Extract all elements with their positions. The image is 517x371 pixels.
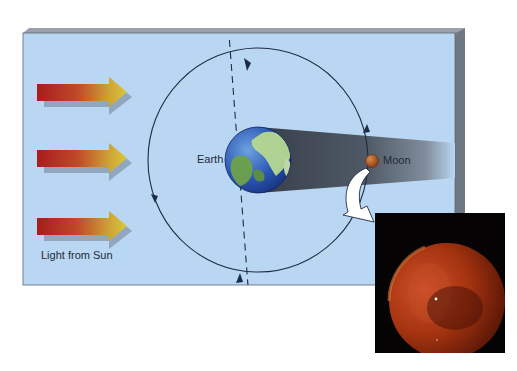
moon-sphere [366,155,379,168]
earth-label: Earth [197,153,223,165]
lunar-eclipse-diagram: Earth Moon Light from Sun [0,0,517,371]
eclipse-moon-photo [375,213,505,353]
panel-top-bevel [23,28,465,33]
sun-light-label: Light from Sun [41,249,113,261]
photo-canvas [375,213,505,353]
earth-globe [225,127,292,193]
star-icon [436,339,438,341]
star-icon [435,298,438,301]
moon-label: Moon [383,154,411,166]
